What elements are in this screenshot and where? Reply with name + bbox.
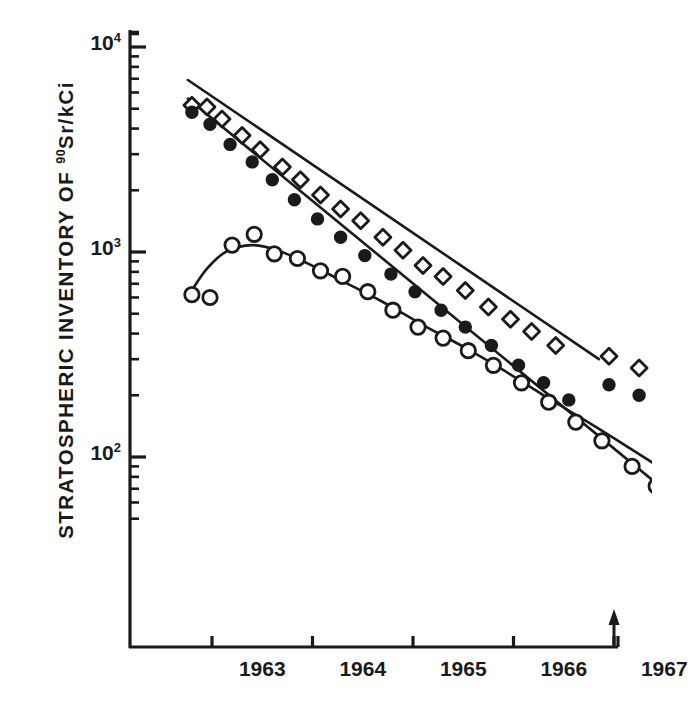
x-tick-label: 1967 [614,657,692,681]
data-point-open-diamond [548,338,564,354]
data-point-filled-circle [359,250,371,262]
data-point-open-circle [225,238,239,252]
data-point-filled-circle [288,194,300,206]
data-point-open-circle [267,247,281,261]
y-tick-mantissa: 10 [90,441,113,464]
data-point-open-diamond [503,311,519,327]
data-point-open-diamond [395,242,411,258]
data-point-open-diamond [480,299,496,315]
data-point-filled-circle [385,268,397,280]
data-point-filled-circle [186,106,198,118]
open-circle-fit-curve [191,245,652,486]
data-point-open-diamond [252,142,268,158]
data-point-filled-circle [435,304,447,316]
data-point-open-circle [185,287,199,301]
data-point-open-circle [625,459,639,473]
y-tick-label: 103 [55,235,121,260]
data-point-open-diamond [313,187,329,203]
y-tick-mantissa: 10 [90,31,113,54]
data-point-open-circle [486,358,500,372]
data-point-open-circle [514,376,528,390]
data-point-open-circle [386,303,400,317]
data-point-filled-circle [538,377,550,389]
data-point-filled-circle [603,379,615,391]
data-point-open-circle [461,344,475,358]
data-point-open-circle [313,264,327,278]
data-point-filled-circle [563,394,575,406]
data-point-open-circle [411,320,425,334]
y-tick-exponent: 2 [114,440,121,455]
x-tick-label: 1963 [212,657,312,681]
data-point-open-circle [649,479,652,493]
data-point-open-diamond [353,213,369,229]
data-point-open-circle [595,434,609,448]
y-tick-label: 102 [55,440,121,465]
data-point-open-circle [290,251,304,265]
y-tick-exponent: 4 [114,30,121,45]
y-tick-mantissa: 10 [90,236,113,259]
data-point-filled-circle [204,118,216,130]
data-point-open-circle [436,331,450,345]
data-point-open-circle [335,269,349,283]
x-tick-label: 1965 [413,657,513,681]
y-tick-exponent: 3 [114,235,121,250]
data-point-filled-circle [459,321,471,333]
data-point-filled-circle [633,389,645,401]
data-point-open-circle [247,227,261,241]
data-point-filled-circle [513,359,525,371]
data-point-open-diamond [234,128,250,144]
data-point-filled-circle [335,231,347,243]
data-point-filled-circle [246,156,258,168]
data-point-open-diamond [524,323,540,339]
data-point-filled-circle [224,138,236,150]
data-point-filled-circle [266,174,278,186]
data-point-open-diamond [457,282,473,298]
data-point-open-circle [361,285,375,299]
data-point-filled-circle [485,340,497,352]
data-point-open-circle [569,415,583,429]
data-point-open-diamond [631,360,647,376]
data-point-open-diamond [415,257,431,273]
x-tick-label: 1966 [514,657,614,681]
y-tick-label: 104 [55,30,121,55]
x-tick-label: 1964 [313,657,413,681]
data-point-open-circle [203,290,217,304]
data-point-filled-circle [312,213,324,225]
data-point-open-diamond [601,348,617,364]
data-point-open-diamond [333,201,349,217]
data-point-open-circle [542,395,556,409]
data-point-filled-circle [409,286,421,298]
data-point-open-diamond [199,99,215,115]
arrow-head [609,609,620,625]
data-point-open-diamond [435,268,451,284]
data-point-open-diamond [375,229,391,245]
